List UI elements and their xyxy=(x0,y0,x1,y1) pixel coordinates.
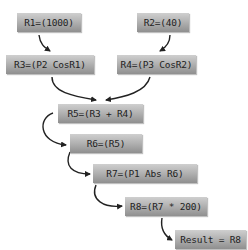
arrow-r1-r3 xyxy=(39,35,50,51)
node-result: Result = R8 xyxy=(175,230,246,249)
node-r6: R6=(R5) xyxy=(70,134,142,153)
arrow-r6-r7 xyxy=(68,152,90,174)
arrow-r2-r4 xyxy=(160,35,170,51)
node-r8: R8=(R7 * 200) xyxy=(125,197,207,216)
flow-diagram: R1=(1000) R2=(40) R3=(P2 CosR1) R4=(P3 C… xyxy=(0,0,248,250)
node-r5: R5=(R3 + R4) xyxy=(58,104,143,123)
arrow-r4-r5 xyxy=(106,77,150,100)
node-r1: R1=(1000) xyxy=(17,13,81,32)
node-r4: R4=(P3 CosR2) xyxy=(117,55,196,74)
arrow-r3-r5 xyxy=(52,77,96,100)
node-r3: R3=(P2 CosR1) xyxy=(6,55,94,74)
node-r2: R2=(40) xyxy=(137,13,189,32)
arrow-r8-result xyxy=(162,218,172,240)
arrow-layer xyxy=(0,0,248,250)
arrow-r7-r8 xyxy=(95,185,122,206)
node-r7: R7=(P1 Abs R6) xyxy=(93,164,197,183)
